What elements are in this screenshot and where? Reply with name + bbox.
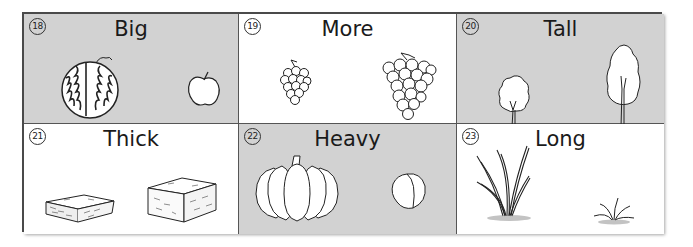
thick-hay-bale-icon [144,174,220,224]
card-heavy: 22 Heavy [239,124,457,234]
large-grape-bunch-icon [381,52,437,122]
card-tall: 20 Tall [457,14,664,124]
card-thick: 21 Thick [24,124,239,234]
peach-icon [389,172,427,210]
card-word: Tall [457,17,664,41]
thin-hay-bale-icon [44,189,116,223]
card-word: Thick [24,127,238,151]
card-word: More [239,17,456,41]
card-long: 23 Long [457,124,664,234]
long-grass-icon [475,144,535,224]
watermelon-icon [60,54,124,118]
tall-tree-icon [604,44,644,130]
card-word: Heavy [239,127,456,151]
card-more: 19 More [239,14,457,124]
small-grape-bunch-icon [279,59,311,105]
pumpkin-icon [254,154,340,222]
short-tree-icon [497,74,531,130]
card-word: Big [24,17,238,41]
vocabulary-card-grid: 18 Big 19 More [22,12,662,232]
apple-icon [187,70,221,108]
short-grass-icon [592,196,636,226]
card-big: 18 Big [24,14,239,124]
